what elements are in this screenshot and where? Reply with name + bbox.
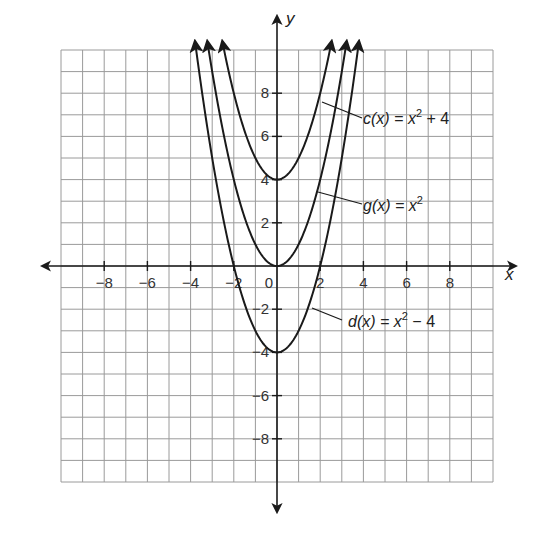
leader-d xyxy=(312,308,342,320)
y-tick-label: 2 xyxy=(261,214,269,231)
x-tick-label: −4 xyxy=(182,274,199,291)
y-axis-label: y xyxy=(285,9,296,28)
y-tick-label: 8 xyxy=(261,84,269,101)
label-c: c(x) = x2 + 4 xyxy=(363,107,449,127)
label-d-post: − 4 xyxy=(408,313,435,330)
y-tick-label: −8 xyxy=(252,430,269,447)
y-tick-label: −2 xyxy=(252,300,269,317)
label-d-pre: d(x) = x xyxy=(348,313,403,330)
y-tick-label: 6 xyxy=(261,127,269,144)
coordinate-plane: −8−6−4−202468−8−6−4−22468 c(x) = x2 + 4 … xyxy=(0,0,538,538)
x-tick-label: 8 xyxy=(446,274,454,291)
leader-g xyxy=(318,192,362,204)
label-d: d(x) = x2 − 4 xyxy=(348,310,435,330)
x-tick-label: −6 xyxy=(139,274,156,291)
label-c-pre: c(x) = x xyxy=(363,110,417,127)
x-axis-label: x xyxy=(504,265,514,284)
label-g: g(x) = x2 xyxy=(363,194,423,214)
axes xyxy=(42,16,516,512)
x-tick-label: 0 xyxy=(265,274,273,291)
label-g-sup: 2 xyxy=(417,194,423,206)
x-tick-label: 4 xyxy=(359,274,367,291)
x-tick-label: −8 xyxy=(96,274,113,291)
y-tick-label: −6 xyxy=(252,387,269,404)
label-g-pre: g(x) = x xyxy=(363,197,418,214)
label-c-post: + 4 xyxy=(422,110,449,127)
x-tick-label: 6 xyxy=(402,274,410,291)
